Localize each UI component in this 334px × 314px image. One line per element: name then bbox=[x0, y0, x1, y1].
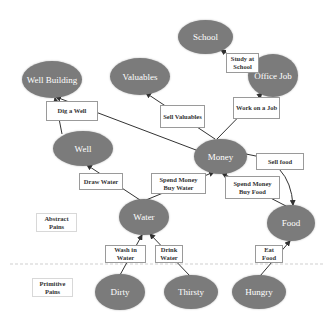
action-sell-valuables: Sell Valuables bbox=[160, 105, 205, 128]
action-draw-water: Draw Water bbox=[79, 173, 123, 190]
node-well-building: Well Building bbox=[22, 61, 82, 98]
node-food: Food bbox=[267, 205, 315, 241]
action-spend-money-buy-food: Spend Money Buy Food bbox=[225, 176, 280, 199]
action-sell-food: Sell food bbox=[256, 153, 304, 170]
action-spend-money-buy-water: Spend Money Buy Water bbox=[151, 173, 206, 194]
action-dig-a-well: Dig a Well bbox=[46, 101, 98, 121]
node-well: Well bbox=[53, 131, 113, 166]
node-hungry: Hungry bbox=[232, 275, 286, 309]
action-work-on-a-job: Work on a Job bbox=[233, 97, 280, 119]
node-valuables: Valuables bbox=[110, 58, 170, 95]
action-drink-water: Drink Water bbox=[155, 245, 183, 263]
action-study-at-school: Study at School bbox=[226, 53, 259, 73]
level-primitive-pains: Primitive Pains bbox=[32, 278, 73, 297]
node-water: Water bbox=[119, 199, 169, 235]
action-wash-in-water: Wash in Water bbox=[105, 245, 146, 263]
node-school: School bbox=[178, 20, 233, 54]
node-money: Money bbox=[194, 139, 247, 174]
action-eat-food: Eat Food bbox=[255, 245, 283, 263]
node-dirty: Dirty bbox=[95, 274, 145, 310]
level-abstract-pains: Abstract Pains bbox=[36, 213, 77, 232]
node-thirsty: Thirsty bbox=[164, 275, 218, 309]
